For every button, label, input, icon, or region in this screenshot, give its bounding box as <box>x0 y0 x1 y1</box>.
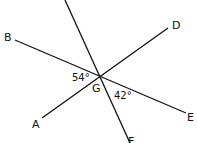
label-e: E <box>187 112 194 123</box>
label-f: F <box>128 136 134 143</box>
label-b: B <box>4 32 12 43</box>
angle-42: 42° <box>114 91 132 101</box>
line-ad <box>42 28 168 118</box>
label-d: D <box>172 20 180 31</box>
label-a: A <box>32 119 40 130</box>
geometry-diagram <box>0 0 197 143</box>
label-g: G <box>92 83 101 94</box>
angle-54: 54° <box>72 73 90 83</box>
